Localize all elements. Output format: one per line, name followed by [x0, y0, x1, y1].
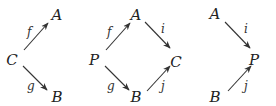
commutative-diagrams: fgCABfgijPACBijAPB — [0, 0, 276, 106]
diagram-span: fgCAB — [6, 6, 62, 106]
arrow-label-f: f — [26, 25, 34, 39]
node-p: P — [88, 51, 100, 69]
arrow-label-f: f — [106, 25, 114, 39]
node-b: B — [208, 88, 220, 106]
node-c: C — [170, 53, 182, 71]
node-b: B — [50, 88, 62, 106]
node-a: A — [50, 6, 63, 24]
node-p: P — [248, 51, 260, 69]
arrow-label-i: i — [161, 22, 165, 36]
diagram-cospan: ijAPB — [208, 5, 260, 106]
arrow-label-j: j — [241, 79, 248, 93]
node-b: B — [129, 88, 141, 106]
node-c: C — [6, 51, 18, 69]
arrow-b-to-c — [147, 66, 170, 91]
node-a: A — [129, 6, 142, 24]
arrow-label-g: g — [107, 79, 115, 93]
arrow-label-i: i — [244, 22, 248, 36]
arrow-label-j: j — [158, 79, 165, 93]
diagram-square: fgijPACB — [88, 6, 182, 106]
arrow-a-to-c — [145, 22, 170, 48]
node-a: A — [208, 5, 221, 23]
arrow-label-g: g — [27, 79, 35, 93]
